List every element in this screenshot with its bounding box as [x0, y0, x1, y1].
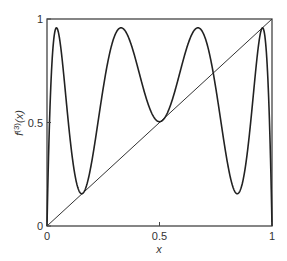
- y-tick-label: 0: [37, 220, 43, 232]
- x-axis-label: x: [155, 243, 162, 255]
- diagonal-line: [47, 19, 272, 226]
- x-tick-label: 0.5: [152, 230, 167, 242]
- f3-curve: [47, 28, 272, 226]
- y-axis-label: f(3)(x): [12, 110, 25, 136]
- chart: 00.5100.51 x f(3)(x): [0, 0, 287, 261]
- y-tick-label: 1: [37, 13, 43, 25]
- x-tick-label: 1: [269, 230, 275, 242]
- y-tick-label: 0.5: [28, 117, 43, 129]
- x-tick-label: 0: [44, 230, 50, 242]
- axis-ticks: 00.5100.51: [28, 13, 275, 242]
- plot-area: [47, 19, 272, 226]
